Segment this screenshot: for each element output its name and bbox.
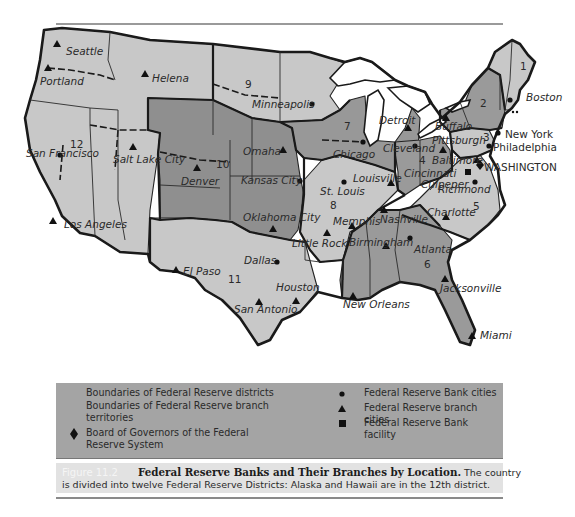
city-label: Houston [276,281,320,293]
city-label: WASHINGTON [484,161,557,173]
district-number: 10 [216,158,229,170]
bank-facility-square [465,169,471,175]
boston-dots [512,111,514,113]
figure-description-rest: is divided into twelve Federal Reserve D… [62,479,490,490]
legend-district-boundaries: Boundaries of Federal Reserve districts [86,387,274,399]
legend-bank-facility: Federal Reserve Bank facility [364,417,503,440]
legend-branch-boundaries: Boundaries of Federal Reserve branch ter… [86,400,269,423]
legend-label: Boundaries of Federal Reserve districts [86,387,274,398]
figure-caption: Figure 11.2Federal Reserve Banks and The… [56,463,503,493]
lake-huron [388,86,430,112]
city-label: Dallas [244,254,277,266]
district-number: 1 [520,60,527,72]
triangle-icon [338,405,346,412]
legend-label: Federal Reserve Bank facility [364,417,468,440]
legend-label: Board of Governors of the Federal [86,427,249,439]
city-label: Chicago [333,148,375,160]
district-number: 4 [419,154,426,166]
city-label: Culpeper [421,178,469,190]
city-label: Birmingham [349,236,413,248]
city-label: Los Angeles [64,218,127,230]
square-icon [339,420,346,427]
figure-number: Figure 11.2 [62,467,118,478]
map-legend: Boundaries of Federal Reserve districts … [56,383,503,458]
city-label: Helena [152,72,189,84]
city-label: Nashville [380,213,428,225]
legend-label: Reserve System [86,439,249,451]
city-label: Charlotte [427,206,476,218]
city-label: Kansas City [241,174,303,186]
legend-label: territories [86,412,269,424]
city-label: Buffalo [435,120,472,132]
district-number: 11 [228,273,241,285]
city-label: Boston [526,91,562,103]
diamond-icon [70,428,78,440]
figure-title: Federal Reserve Banks and Their Branches… [138,466,461,478]
circle-icon [339,391,345,397]
legend-board-of-governors: Board of Governors of the Federal Reserv… [86,427,249,450]
legend-bank-cities: Federal Reserve Bank cities [364,387,496,399]
city-label: St. Louis [320,185,365,197]
bank-city-dot [507,97,512,102]
caption-line-2: is divided into twelve Federal Reserve D… [62,479,495,490]
city-label: San Antonio [234,303,297,315]
city-label: Atlanta [413,243,452,255]
city-label: Minneapolis [252,98,315,110]
city-label: Jacksonville [438,282,501,294]
city-label: Philadelphia [493,141,557,153]
city-label: Louisville [353,172,402,184]
city-label: Denver [181,175,220,187]
city-label: Pittsburgh [432,134,486,146]
district-number: 6 [424,258,431,270]
city-label: Oklahoma City [243,211,321,223]
city-label: Detroit [379,114,416,126]
city-label: New York [505,128,554,140]
figure-description-start: The country [464,467,521,478]
city-label: Omaha [243,145,281,157]
bank-city-dot [495,130,500,135]
federal-reserve-map: 1 2 3 4 5 6 7 8 9 10 11 12 [0,0,575,370]
city-label: El Paso [183,265,221,277]
city-label: San Francisco [26,147,99,159]
district-number: 2 [480,97,487,109]
city-label: Little Rock [292,237,348,249]
city-label: New Orleans [343,298,410,310]
bank-city-dot [341,179,346,184]
city-label: Memphis [333,215,381,227]
bank-city-dot [486,143,491,148]
caption-line-1: Figure 11.2Federal Reserve Banks and The… [62,466,495,478]
district-number: 9 [245,78,252,90]
boston-dots [516,111,518,113]
legend-label: Federal Reserve Bank cities [364,387,496,398]
city-label: Miami [480,329,512,341]
bank-city-dot [360,139,365,144]
district-number: 8 [330,199,337,211]
city-label: Seattle [66,45,103,57]
district-number: 7 [344,120,351,132]
branch-triangle [49,217,57,224]
city-label: Portland [40,75,84,87]
legend-label: Boundaries of Federal Reserve branch [86,400,269,412]
city-label: Baltimore [432,154,483,166]
city-label: Salt Lake City [113,153,186,165]
bottom-rule [56,497,503,499]
city-label: Cleveland [383,142,435,154]
